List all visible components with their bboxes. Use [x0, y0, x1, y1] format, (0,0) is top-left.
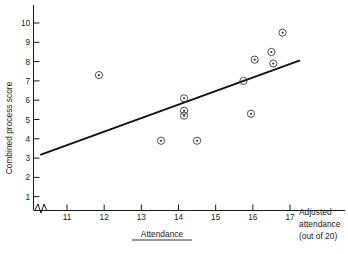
y-tick-label-1: 1	[25, 193, 30, 202]
y-tick-group: 12345678910	[21, 19, 40, 202]
axis-break-zigzag	[35, 204, 47, 213]
data-point	[157, 137, 164, 144]
y-tick-label-10: 10	[21, 19, 31, 28]
x-tick-label-14: 14	[174, 213, 184, 222]
data-point	[268, 48, 275, 55]
data-point	[247, 110, 254, 117]
data-point	[279, 29, 286, 36]
marker-dot	[282, 32, 284, 34]
data-point	[95, 72, 102, 79]
y-axis-title: Combined process score	[4, 81, 14, 174]
y-tick-label-2: 2	[25, 173, 30, 182]
x-axis-title: Attendance	[141, 229, 184, 239]
y-tick-label-7: 7	[25, 77, 30, 86]
marker-dot	[242, 80, 244, 82]
data-point	[180, 112, 187, 119]
marker-dot	[183, 110, 185, 112]
plot-canvas: 12345678910 11121314151617 Combined proc…	[0, 0, 348, 254]
y-tick-label-4: 4	[25, 135, 30, 144]
adjusted-attendance-label-line2: attendance	[299, 219, 341, 229]
y-tick-label-3: 3	[25, 154, 30, 163]
data-point-group	[95, 29, 286, 144]
adjusted-attendance-label-line3: (out of 20)	[299, 231, 337, 241]
x-tick-label-17: 17	[285, 213, 295, 222]
marker-dot	[272, 62, 274, 64]
x-tick-label-16: 16	[248, 213, 258, 222]
data-point	[193, 137, 200, 144]
marker-dot	[160, 140, 162, 142]
marker-dot	[183, 115, 185, 117]
adjusted-attendance-label-line1: Adjusted	[299, 207, 332, 217]
x-tick-label-13: 13	[137, 213, 147, 222]
x-tick-group: 11121314151617	[63, 205, 295, 223]
data-point	[270, 60, 277, 67]
regression-line	[41, 61, 299, 155]
marker-dot	[98, 74, 100, 76]
x-tick-label-11: 11	[63, 213, 72, 222]
marker-dot	[270, 51, 272, 53]
data-point	[180, 95, 187, 102]
marker-dot	[183, 97, 185, 99]
marker-dot	[196, 140, 198, 142]
y-tick-label-5: 5	[25, 116, 30, 125]
x-tick-label-15: 15	[211, 213, 221, 222]
scatter-plot-figure: 12345678910 11121314151617 Combined proc…	[0, 0, 348, 254]
y-tick-label-8: 8	[25, 58, 30, 67]
data-point	[251, 56, 258, 63]
y-tick-label-9: 9	[25, 38, 30, 47]
x-tick-label-12: 12	[100, 213, 110, 222]
y-tick-label-6: 6	[25, 96, 30, 105]
marker-dot	[254, 59, 256, 61]
marker-dot	[250, 113, 252, 115]
